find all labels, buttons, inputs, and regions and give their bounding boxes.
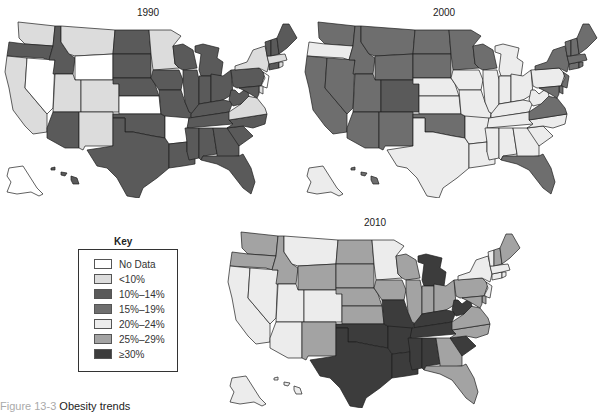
legend-label: 25%–29%: [119, 334, 165, 345]
state-ut: [353, 74, 381, 112]
map-1990: [3, 18, 298, 198]
legend-swatch: [94, 334, 112, 344]
state-fl: [201, 154, 255, 194]
legend-item-30-plus: ≥30%: [94, 348, 145, 360]
state-nm: [302, 322, 336, 360]
state-nm: [79, 112, 113, 150]
state-me: [577, 24, 597, 54]
state-fl: [424, 364, 478, 404]
state-nm: [379, 112, 413, 150]
state-ne: [413, 78, 459, 96]
state-sd: [413, 54, 451, 78]
state-in: [199, 76, 211, 104]
state-mi: [195, 44, 223, 76]
map-title-1990: 1990: [118, 7, 178, 18]
state-me: [277, 24, 297, 54]
state-hi: [351, 167, 379, 184]
state-wa: [318, 22, 355, 46]
figure-caption: Figure 13-3 Obesity trends: [0, 400, 130, 412]
map-title-2000: 2000: [414, 7, 474, 18]
legend-item-no-data: No Data: [94, 258, 156, 270]
legend-label: No Data: [119, 259, 156, 270]
key-title: Key: [114, 236, 132, 247]
state-de: [482, 296, 486, 304]
map-2000: [303, 18, 598, 198]
state-ri: [502, 272, 506, 278]
state-in: [422, 286, 434, 314]
state-de: [559, 86, 563, 94]
state-ak: [7, 166, 43, 196]
state-mt: [284, 236, 338, 266]
state-wy: [375, 54, 413, 80]
state-sd: [113, 54, 151, 78]
state-nd: [113, 30, 151, 54]
state-ri: [279, 62, 283, 68]
state-ks: [342, 306, 384, 324]
state-wy: [75, 54, 113, 80]
state-pa: [454, 278, 488, 298]
state-pa: [531, 68, 565, 88]
state-nd: [336, 240, 374, 264]
legend-swatch: [94, 349, 112, 359]
state-ne: [336, 288, 382, 306]
legend-label: 20%–24%: [119, 319, 165, 330]
state-mi: [418, 254, 446, 286]
state-ut: [53, 74, 81, 112]
state-co: [381, 80, 419, 112]
state-me: [500, 234, 520, 264]
state-mi: [495, 44, 523, 76]
state-az: [47, 112, 79, 148]
state-fl: [501, 154, 555, 194]
legend-swatch: [94, 259, 112, 269]
legend-swatch: [94, 304, 112, 314]
state-hi: [274, 377, 302, 394]
legend: No Data <10% 10%–14% 15%–19% 20%–24% 25%…: [78, 249, 178, 372]
legend-item-15-19: 15%–19%: [94, 303, 165, 315]
state-az: [270, 322, 302, 358]
legend-swatch: [94, 274, 112, 284]
legend-swatch: [94, 319, 112, 329]
state-sd: [336, 264, 374, 288]
caption-title: Obesity trends: [59, 400, 130, 412]
state-mt: [61, 26, 115, 56]
legend-label: <10%: [119, 274, 145, 285]
state-ak: [230, 376, 266, 406]
legend-item-25-29: 25%–29%: [94, 333, 165, 345]
state-in: [499, 76, 511, 104]
state-ks: [119, 96, 161, 114]
legend-label: ≥30%: [119, 349, 145, 360]
state-ny: [235, 46, 269, 72]
state-ks: [419, 96, 461, 114]
state-pa: [231, 68, 265, 88]
state-ny: [535, 46, 569, 72]
state-wa: [241, 232, 278, 256]
state-ny: [458, 256, 492, 282]
map-title-2010: 2010: [345, 217, 405, 228]
map-2010: [226, 228, 521, 408]
state-nd: [413, 30, 451, 54]
legend-item-20-24: 20%–24%: [94, 318, 165, 330]
legend-label: 10%–14%: [119, 289, 165, 300]
state-az: [347, 112, 379, 148]
legend-item-lt10: <10%: [94, 273, 145, 285]
state-mt: [361, 26, 415, 56]
state-wa: [18, 22, 55, 46]
state-wy: [298, 264, 336, 290]
legend-label: 15%–19%: [119, 304, 165, 315]
legend-item-10-14: 10%–14%: [94, 288, 165, 300]
caption-label: Figure 13-3: [0, 400, 56, 412]
state-co: [81, 80, 119, 112]
state-ri: [579, 62, 583, 68]
state-ne: [113, 78, 159, 96]
state-de: [259, 86, 263, 94]
state-ak: [307, 166, 343, 196]
state-hi: [51, 167, 79, 184]
state-ut: [276, 284, 304, 322]
state-co: [304, 290, 342, 322]
legend-swatch: [94, 289, 112, 299]
